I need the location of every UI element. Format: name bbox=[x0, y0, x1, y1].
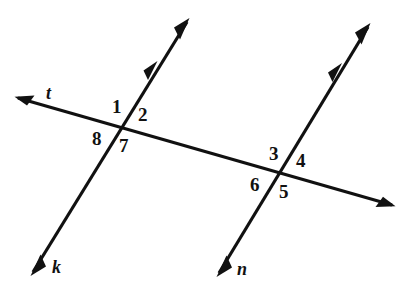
line-t-segment bbox=[18, 98, 392, 205]
geometry-diagram: 1 2 8 7 3 4 6 5 t k n bbox=[0, 0, 417, 282]
line-label-k: k bbox=[52, 258, 61, 276]
angle-label-4: 4 bbox=[296, 151, 306, 170]
angle-label-2: 2 bbox=[138, 105, 148, 124]
angle-label-7: 7 bbox=[119, 136, 129, 155]
line-n bbox=[217, 23, 371, 277]
line-k bbox=[31, 18, 190, 276]
line-n-arrowhead-start bbox=[355, 23, 371, 45]
line-k-arrowhead-end bbox=[31, 255, 47, 277]
line-n-arrowhead-end bbox=[217, 256, 233, 278]
angle-label-3: 3 bbox=[269, 144, 279, 163]
line-label-n: n bbox=[237, 260, 247, 278]
angle-label-5: 5 bbox=[279, 182, 289, 201]
line-k-arrowhead-start bbox=[174, 18, 190, 40]
geometry-canvas bbox=[0, 0, 417, 282]
line-t bbox=[15, 96, 396, 208]
line-k-segment bbox=[33, 22, 187, 272]
angle-label-8: 8 bbox=[92, 129, 102, 148]
line-label-t: t bbox=[46, 84, 51, 102]
line-n-segment bbox=[219, 27, 368, 273]
angle-label-6: 6 bbox=[250, 175, 260, 194]
angle-label-1: 1 bbox=[112, 97, 122, 116]
